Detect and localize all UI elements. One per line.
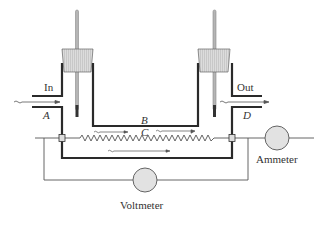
point-d-label: D: [242, 109, 251, 121]
ammeter-label: Ammeter: [256, 153, 298, 165]
point-c-label: C: [141, 126, 149, 138]
calorimeter-diagram: In Out A B C D Voltmeter Ammeter: [0, 0, 330, 229]
voltmeter-label: Voltmeter: [120, 199, 164, 211]
left-seal: [59, 135, 65, 142]
outlet-label: Out: [237, 81, 254, 93]
flow-tube: [32, 63, 262, 158]
inlet-label: In: [44, 81, 54, 93]
ammeter: [265, 126, 289, 150]
point-b-label: B: [141, 114, 148, 126]
outlet-flow-arrow: [220, 101, 269, 104]
outlet-stopper: [198, 49, 230, 72]
inlet-flow-arrow: [14, 101, 60, 104]
inlet-stopper: [62, 49, 93, 72]
point-a-label: A: [42, 109, 50, 121]
right-seal: [229, 135, 235, 142]
voltmeter: [133, 168, 157, 192]
